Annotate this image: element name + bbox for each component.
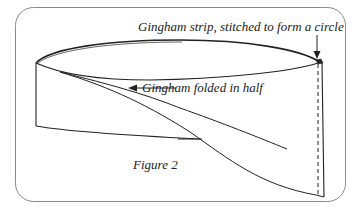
top-ellipse-back-edge-inner [37,42,182,64]
bottom-band-edge [36,126,200,139]
strip-arrow-head-icon [314,51,321,59]
figure-caption: Figure 2 [133,158,178,171]
label-gingham-folded: Gingham folded in half [142,81,263,94]
right-bottom-corner [316,195,324,197]
label-gingham-strip: Gingham strip, stitched to form a circle [138,20,344,33]
right-solid-edge [322,63,324,197]
rounded-frame [16,8,346,202]
top-ellipse-back-edge [36,40,318,63]
